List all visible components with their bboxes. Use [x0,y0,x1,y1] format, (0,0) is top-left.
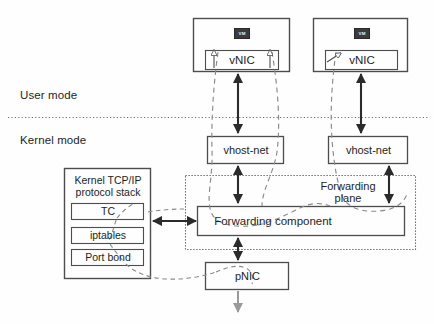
kernel-stack-title-line2: protocol stack [76,187,141,199]
forwarding-plane-label-line1: Forwarding [320,180,375,192]
pnic-label: pNIC [206,263,289,290]
vhost-net-label-right: vhost-net [329,137,408,164]
forwarding-plane-label-line2: plane [335,192,362,204]
forwarding-component-label: Forwarding component [198,207,348,236]
vhost-net-label-left: vhost-net [208,137,284,164]
user-mode-label: User mode [20,89,77,101]
dashed-flow-stack-to-forwarding [148,209,184,212]
vhost-net-label-right-text: vhost-net [346,144,391,156]
vnic-label-left: vNIC [205,50,279,70]
vm-badge-left-label: VM [239,31,246,36]
tc-label-text: TC [101,206,115,218]
port-bond-label-text: Port bond [85,252,131,264]
vnic-label-right-text: vNIC [349,54,375,67]
dashed-flow-stack-to-pnic [126,264,216,279]
forwarding-plane-label: Forwarding plane [308,178,388,206]
port-bond-label: Port bond [72,250,144,266]
vm-badge-right-label: VM [359,31,366,36]
vhost-net-label-left-text: vhost-net [223,144,268,156]
pnic-label-text: pNIC [235,270,260,282]
kernel-mode-label: Kernel mode [20,134,86,146]
tc-label: TC [72,204,144,220]
iptables-label: iptables [72,228,144,244]
vnic-label-left-text: vNIC [229,54,255,67]
dashed-flow-left-in [262,52,279,206]
vm-badge-left: VM [234,28,250,39]
diagram-canvas: VM VM User mode Kernel mode vNIC vNIC vh… [0,0,434,324]
iptables-label-text: iptables [90,230,126,242]
vm-badge-right: VM [354,28,370,39]
forwarding-component-label-text: Forwarding component [214,215,332,228]
kernel-stack-title: Kernel TCP/IP protocol stack [65,173,151,201]
vnic-label-right: vNIC [326,50,398,70]
